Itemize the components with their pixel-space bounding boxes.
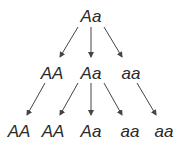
generation1-node-AA: AA [41, 65, 64, 82]
arrow-n0-to-n3 [104, 27, 122, 57]
generation2-node-AA-1: AA [8, 123, 31, 140]
arrow-n2-to-n7 [104, 83, 122, 115]
generation2-node-aa-1: aa [121, 123, 140, 140]
inheritance-diagram: Aa AA Aa aa AA AA Aa aa aa [0, 0, 182, 142]
generation1-node-Aa: Aa [81, 65, 102, 82]
generation1-node-aa: aa [122, 65, 141, 82]
arrow-n1-to-n4 [27, 83, 45, 115]
generation2-node-Aa: Aa [81, 123, 102, 140]
parent-genotype-node: Aa [81, 8, 102, 25]
generation2-node-aa-2: aa [155, 123, 174, 140]
arrow-n3-to-n8 [137, 83, 156, 115]
generation2-node-AA-2: AA [42, 123, 65, 140]
arrow-n0-to-n1 [60, 27, 78, 57]
arrow-n2-to-n5 [60, 83, 78, 115]
